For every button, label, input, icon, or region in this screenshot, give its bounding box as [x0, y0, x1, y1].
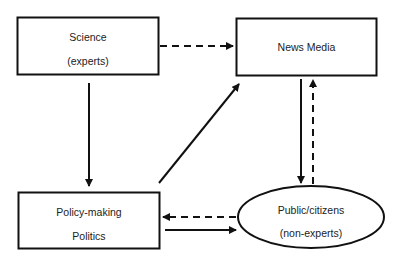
edge-policy-to-news: [159, 84, 239, 183]
policy-label-line1: Policy-making: [18, 207, 160, 218]
science-label-line2: (experts): [17, 56, 159, 67]
public-label-line2: (non-experts): [238, 228, 384, 239]
public-label-line1: Public/citizens: [238, 205, 384, 216]
news-media-label: News Media: [236, 42, 377, 53]
policy-label-line2: Politics: [18, 231, 160, 242]
science-label-line1: Science: [17, 32, 159, 43]
